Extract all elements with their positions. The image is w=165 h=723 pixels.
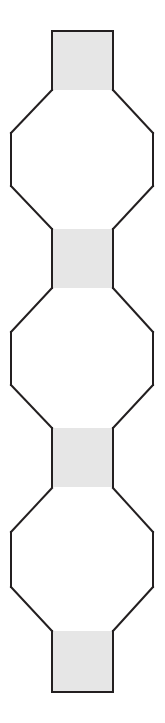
octagon-chain-figure [0,0,165,723]
neck-rectangle-lower-fill [52,428,113,487]
top-cap-rectangle-fill [52,31,113,90]
figure-canvas [0,0,165,723]
bottom-cap-rectangle-fill [52,631,113,692]
neck-rectangle-upper-fill [52,229,113,288]
shape-fills [11,31,153,692]
